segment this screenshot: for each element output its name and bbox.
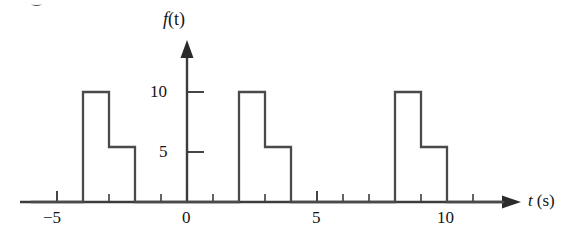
y-axis-arrow-icon (181, 40, 194, 58)
waveform-curve (31, 92, 504, 202)
x-tick-label-neg5: −5 (43, 209, 61, 226)
x-axis-title-t: t (528, 191, 533, 210)
y-axis-title: f(t) (163, 10, 185, 28)
y-tick-label-5: 5 (159, 143, 168, 160)
x-tick-label-0: 0 (182, 209, 191, 226)
y-axis-title-arg: (t) (168, 9, 185, 29)
x-axis-arrow-icon (502, 196, 521, 209)
x-axis-title-unit: (s) (537, 191, 555, 210)
x-tick-label-10: 10 (437, 209, 454, 226)
x-axis-major-ticks (57, 191, 447, 202)
x-axis-title: t(s) (528, 192, 555, 209)
x-tick-label-5: 5 (312, 209, 321, 226)
figure-canvas: f(t) 10 5 −5 0 5 10 t(s) (0, 0, 571, 242)
y-tick-label-10: 10 (150, 83, 167, 100)
waveform-plot (0, 0, 571, 242)
